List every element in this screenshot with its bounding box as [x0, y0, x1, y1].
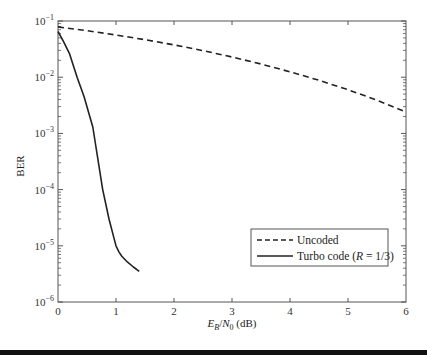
legend: Uncoded Turbo code (R = 1/3) — [251, 229, 394, 266]
y-tick-label: 10−4 — [34, 182, 54, 196]
y-tick-label: 10−3 — [34, 125, 54, 139]
legend-label-turbo: Turbo code (R = 1/3) — [297, 250, 394, 263]
series-uncoded-line — [58, 27, 406, 112]
x-tick-label: 6 — [403, 305, 409, 317]
x-tick-label: 5 — [345, 305, 351, 317]
y-tick-label: 10−1 — [34, 13, 54, 27]
series-turbo-line — [58, 32, 139, 272]
x-tick-label: 3 — [229, 305, 235, 317]
y-tick-label: 10−2 — [34, 69, 54, 83]
y-axis-label: BER — [14, 155, 26, 177]
x-tick-label: 1 — [113, 305, 119, 317]
x-axis-ticks: 0123456 — [55, 21, 409, 317]
ber-chart: 0123456 10−110−210−310−410−510−6 BER EB/… — [0, 0, 427, 355]
x-axis-label: EB/N0 (dB) — [207, 317, 257, 332]
y-tick-label: 10−6 — [34, 294, 54, 308]
x-tick-label: 0 — [55, 305, 61, 317]
y-tick-label: 10−5 — [34, 238, 54, 252]
bottom-rule — [0, 350, 427, 355]
x-tick-label: 2 — [171, 305, 177, 317]
legend-label-uncoded: Uncoded — [297, 234, 339, 246]
x-tick-label: 4 — [287, 305, 293, 317]
